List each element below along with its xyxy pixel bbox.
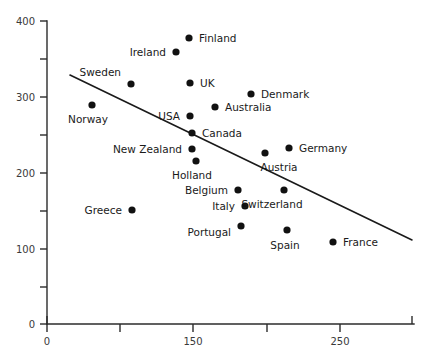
data-point: Spain xyxy=(270,226,299,251)
data-point-label: Italy xyxy=(212,200,235,212)
data-point-label: UK xyxy=(200,77,216,89)
x-tick-label: 0 xyxy=(44,336,50,347)
data-point: Germany xyxy=(285,142,347,154)
x-axis-ticks: 0150250 xyxy=(44,316,412,347)
data-point: France xyxy=(329,236,378,248)
chart-canvas: 4003002001000 0150250 NorwayGreeceSweden… xyxy=(0,0,430,362)
data-point-label: Ireland xyxy=(130,46,166,58)
data-point: Ireland xyxy=(130,46,180,58)
data-point: UK xyxy=(186,77,215,89)
data-point-label: New Zealand xyxy=(113,143,182,155)
data-point-label: Norway xyxy=(68,113,108,125)
data-point: USA xyxy=(158,110,193,122)
data-point-label: Australia xyxy=(225,101,271,113)
data-point-marker xyxy=(188,129,195,136)
data-point: Portugal xyxy=(188,222,245,238)
data-point-label: Germany xyxy=(299,142,347,154)
x-tick-label: 250 xyxy=(330,336,349,347)
data-point: New Zealand xyxy=(113,143,196,155)
data-point-marker xyxy=(88,101,95,108)
data-point-label: Spain xyxy=(270,239,299,251)
y-tick-label: 400 xyxy=(16,16,35,27)
data-point: Austria xyxy=(260,149,297,173)
data-point: Norway xyxy=(68,101,108,125)
y-tick-label: 100 xyxy=(16,244,35,255)
data-point-marker xyxy=(211,103,218,110)
data-point-label: Denmark xyxy=(261,88,310,100)
data-point-marker xyxy=(172,48,179,55)
data-point-label: USA xyxy=(158,110,181,122)
data-point: Australia xyxy=(211,101,271,113)
y-tick-label: 300 xyxy=(16,92,35,103)
data-point-label: Switzerland xyxy=(241,198,302,210)
data-point-label: Finland xyxy=(199,32,237,44)
data-point: Canada xyxy=(188,127,242,139)
data-point-marker xyxy=(261,149,268,156)
data-point-label: Holland xyxy=(172,169,212,181)
data-point-marker xyxy=(186,112,193,119)
data-point-marker xyxy=(234,186,241,193)
data-point-marker xyxy=(128,206,135,213)
data-point-marker xyxy=(192,157,199,164)
scatter-chart: 4003002001000 0150250 NorwayGreeceSweden… xyxy=(0,0,430,362)
data-point-label: Greece xyxy=(85,204,122,216)
x-tick-label: 150 xyxy=(183,336,202,347)
data-point: Holland xyxy=(172,157,212,181)
data-point-marker xyxy=(237,222,244,229)
y-tick-label: 0 xyxy=(29,319,35,330)
data-point-marker xyxy=(285,144,292,151)
y-tick-label: 200 xyxy=(16,168,35,179)
data-point-marker xyxy=(186,79,193,86)
data-point: Switzerland xyxy=(241,186,302,210)
data-point-marker xyxy=(188,145,195,152)
data-point-marker xyxy=(329,238,336,245)
data-point: Finland xyxy=(185,32,236,44)
data-point-marker xyxy=(280,186,287,193)
data-point-marker xyxy=(127,80,134,87)
data-point: Belgium xyxy=(185,184,242,196)
data-point-label: Belgium xyxy=(185,184,228,196)
data-point: Greece xyxy=(85,204,136,216)
data-point-label: Portugal xyxy=(188,226,232,238)
data-point-marker xyxy=(185,34,192,41)
data-point-label: France xyxy=(343,236,378,248)
data-point-label: Canada xyxy=(202,127,242,139)
data-point: Denmark xyxy=(247,88,310,100)
data-points: NorwayGreeceSwedenIrelandFinlandUKUSACan… xyxy=(68,32,378,251)
data-point-marker xyxy=(247,90,254,97)
y-axis-ticks: 4003002001000 xyxy=(16,16,47,330)
data-point-marker xyxy=(283,226,290,233)
data-point-label: Sweden xyxy=(80,66,122,78)
data-point-label: Austria xyxy=(260,161,297,173)
